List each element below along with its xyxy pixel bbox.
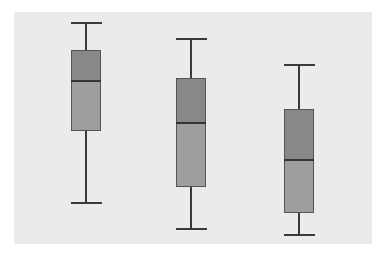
box-plot-figure: [0, 0, 386, 256]
upper-whisker: [298, 65, 300, 109]
box-upper-quartile: [284, 109, 314, 160]
box-lower-quartile: [284, 160, 314, 213]
median-line: [284, 159, 314, 161]
box-3: [14, 12, 372, 244]
lower-whisker: [298, 213, 300, 235]
plot-area: [14, 12, 372, 244]
lower-whisker-cap: [284, 234, 315, 236]
upper-whisker-cap: [284, 64, 315, 66]
